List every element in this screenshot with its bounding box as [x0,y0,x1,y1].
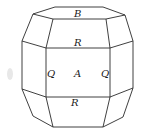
crystal-diagram: B R Q A Q R [0,0,142,136]
face-label-q-left: Q [47,68,55,79]
scan-smudge [7,68,13,80]
face-label-a: A [73,68,81,79]
face-labels: B R Q A Q R [47,8,109,108]
face-label-r-upper: R [73,37,82,48]
face-label-q-right: Q [101,68,109,79]
crystal-outline [22,7,133,127]
face-label-r-lower: R [70,97,79,108]
face-label-b: B [73,8,81,19]
